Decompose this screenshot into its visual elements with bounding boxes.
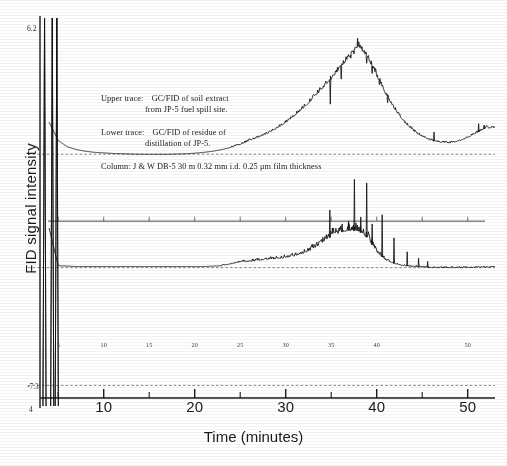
inner-axis-tick-label: 30 [283,341,289,348]
y-max-label: 6.2 [27,24,36,33]
annotation-lower-line1: GC/FID of residue of [153,128,226,137]
inner-axis-tick-label: 20 [192,341,198,348]
x-tick-label: 10 [95,398,112,415]
x-axis-label: Time (minutes) [0,428,507,445]
x-tick-label: 30 [277,398,294,415]
x-tick-label: 40 [368,398,385,415]
annotation-upper-trace: Upper trace: GC/FID of soil extract [101,93,229,105]
annotation-column: Column: J & W DB-5 30 m 0.32 mm i.d. 0.2… [101,161,321,173]
inner-axis-tick-label: 5 [57,341,60,348]
x-origin-label: 4 [29,405,33,414]
inner-axis-tick-label: 25 [237,341,243,348]
annotation-upper-line2: from JP-5 fuel spill site. [145,104,228,116]
annotation-upper-line1: GC/FID of soil extract [152,94,229,103]
inner-axis-tick-label: 40 [374,341,380,348]
inner-axis-tick-label: 35 [328,341,334,348]
y-axis-label: FID signal intensity [22,109,39,309]
inner-axis-tick-label: 50 [465,341,471,348]
inner-axis-tick-label: 15 [146,341,152,348]
annotation-lower-line2: distillation of JP-5. [145,138,210,150]
x-tick-label: 50 [459,398,476,415]
annotation-lower-label: Lower trace: [101,127,144,139]
figure-background [0,0,507,466]
x-tick-label: 20 [186,398,203,415]
inner-axis-tick-label: 10 [101,341,107,348]
annotation-lower-trace: Lower trace: GC/FID of residue of [101,127,226,139]
chromatogram-figure [0,0,507,466]
annotation-upper-label: Upper trace: [101,93,143,105]
y-min-label: -7.3 [27,382,39,391]
